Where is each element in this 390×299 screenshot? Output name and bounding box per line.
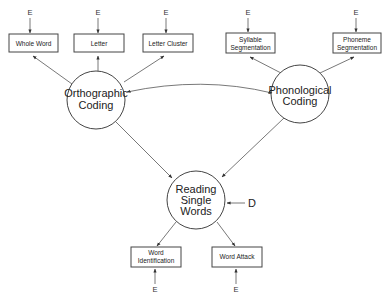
indicator-label: Word Attack [220, 253, 256, 260]
indicator-label-line2: Segmentation [337, 44, 377, 52]
error-label: E [27, 8, 32, 17]
loading-arrow-word-attack [217, 222, 235, 246]
disturbance: D [227, 197, 256, 209]
loading-arrow-whole-word [33, 56, 72, 84]
factor-label-line2: Coding [79, 99, 114, 111]
indicator-syllable-segmentation: E Syllable Segmentation [226, 8, 275, 53]
disturbance-label: D [248, 197, 256, 209]
error-label: E [233, 285, 238, 294]
indicator-label-line1: Phoneme [343, 36, 371, 43]
indicator-word-attack: Word Attack E [212, 247, 262, 294]
indicator-label: Letter [91, 40, 108, 47]
indicator-label-line1: Word [148, 249, 164, 256]
factor-label-line2: Coding [283, 95, 318, 107]
sem-path-diagram: E Whole Word E Letter E Letter Cluster E… [0, 0, 390, 299]
indicator-label-line1: Syllable [239, 36, 262, 44]
loading-arrow-phoneme [320, 57, 354, 73]
indicator-letter-cluster: E Letter Cluster [143, 8, 193, 52]
error-label: E [152, 285, 157, 294]
loading-arrow-syllable [250, 57, 281, 73]
indicator-label-line2: Segmentation [230, 44, 270, 52]
indicator-label: Whole Word [16, 40, 52, 47]
factor-label-line3: Words [180, 205, 212, 217]
error-label: E [163, 8, 168, 17]
path-arrow-orthographic-to-reading [116, 122, 172, 178]
indicator-label-line2: Identification [138, 257, 175, 264]
error-label: E [245, 8, 250, 17]
factor-phonological-coding: Phonological Coding [269, 65, 332, 123]
error-label: E [95, 8, 100, 17]
indicator-whole-word: E Whole Word [9, 8, 58, 52]
factor-orthographic-coding: Orthographic Coding [64, 71, 128, 129]
indicator-label: Letter Cluster [148, 40, 188, 47]
correlation-arrow [127, 84, 272, 93]
indicator-word-identification: Word Identification E [131, 247, 181, 294]
indicator-phoneme-segmentation: E Phoneme Segmentation [333, 8, 381, 53]
factor-label-line1: Orthographic [64, 87, 128, 99]
indicator-letter: E Letter [74, 8, 124, 52]
factor-reading-single-words: Reading Single Words [167, 171, 225, 229]
path-arrow-phonological-to-reading [222, 118, 284, 177]
loading-arrow-letter-cluster [124, 56, 164, 82]
loading-arrow-word-identification [157, 222, 176, 246]
error-label: E [353, 8, 358, 17]
